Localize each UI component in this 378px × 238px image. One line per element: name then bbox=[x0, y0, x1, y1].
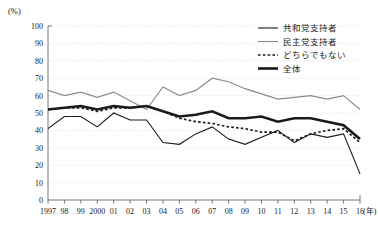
series-line bbox=[48, 78, 360, 109]
series-line bbox=[48, 106, 360, 143]
chart-canvas: 0102030405060708090100 19979899200001020… bbox=[0, 0, 378, 238]
y-tick-label: 20 bbox=[35, 161, 43, 170]
x-axis-ticks: 1997989920000102030405060708091011121314… bbox=[40, 200, 377, 216]
x-tick-label: 08 bbox=[225, 207, 233, 216]
x-tick-label: 14 bbox=[323, 207, 331, 216]
y-tick-label: 0 bbox=[39, 196, 43, 205]
legend-label: 民主党支持者 bbox=[283, 37, 337, 47]
x-tick-label: 99 bbox=[77, 207, 85, 216]
y-tick-label: 10 bbox=[35, 179, 43, 188]
legend-label: 共和党支持者 bbox=[283, 23, 337, 33]
y-axis-unit-label: (%) bbox=[8, 6, 21, 16]
x-tick-label: 1997 bbox=[40, 207, 56, 216]
x-tick-label: 06 bbox=[192, 207, 200, 216]
x-tick-label: 02 bbox=[126, 207, 134, 216]
line-chart: 0102030405060708090100 19979899200001020… bbox=[0, 0, 378, 238]
y-tick-label: 90 bbox=[35, 39, 43, 48]
y-tick-label: 50 bbox=[35, 109, 43, 118]
x-tick-label: 15 bbox=[340, 207, 348, 216]
x-tick-label: 05 bbox=[175, 207, 183, 216]
x-tick-label: 12 bbox=[290, 207, 298, 216]
x-tick-label: 03 bbox=[143, 207, 151, 216]
x-axis-unit-label: (年) bbox=[363, 206, 377, 216]
x-tick-label: 01 bbox=[110, 207, 118, 216]
chart-legend: 共和党支持者民主党支持者どちらでもない全体 bbox=[258, 23, 346, 73]
y-tick-label: 70 bbox=[35, 74, 43, 83]
x-tick-label: 04 bbox=[159, 207, 167, 216]
x-tick-label: 98 bbox=[60, 207, 68, 216]
y-tick-label: 30 bbox=[35, 144, 43, 153]
x-tick-label: 11 bbox=[274, 207, 282, 216]
legend-label: どちらでもない bbox=[283, 50, 346, 60]
x-tick-label: 09 bbox=[241, 207, 249, 216]
y-tick-label: 80 bbox=[35, 57, 43, 66]
x-tick-label: 07 bbox=[208, 207, 216, 216]
x-tick-label: 2000 bbox=[89, 207, 105, 216]
legend-label: 全体 bbox=[283, 64, 301, 74]
y-tick-label: 100 bbox=[31, 22, 43, 31]
y-tick-label: 60 bbox=[35, 92, 43, 101]
x-tick-label: 10 bbox=[257, 207, 265, 216]
data-series bbox=[48, 78, 360, 174]
y-axis-ticks: 0102030405060708090100 bbox=[31, 22, 43, 205]
y-tick-label: 40 bbox=[35, 126, 43, 135]
x-tick-label: 13 bbox=[307, 207, 315, 216]
